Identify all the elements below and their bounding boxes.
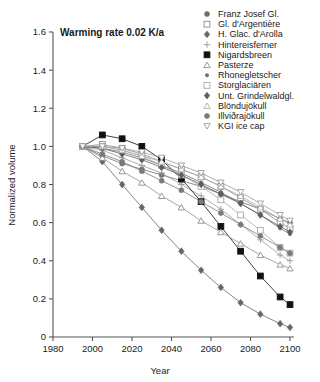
y-axis-tick-label: 1.4 [33,65,46,76]
legend-marker-icon [204,92,209,99]
x-axis-tick-label: 2020 [121,343,142,354]
x-axis-title: Year [150,365,169,376]
series-marker [119,136,125,142]
x-axis-tick-label: 2080 [240,343,261,354]
series-unt-grindelwaldgl [80,143,293,236]
series-marker [159,178,164,183]
legend-item-label: Pasterze [218,60,254,70]
series-marker [218,284,223,291]
y-axis-tick-label: 1.6 [33,26,46,37]
series-marker [237,241,243,246]
legend-marker-icon [205,74,208,77]
legend-marker-icon [204,41,211,48]
legend-item-label: H. Glac. d'Arolla [218,29,283,39]
series-marker [120,159,125,164]
series-marker [198,218,204,223]
series-marker [287,324,292,331]
y-axis-tick-label: 0 [41,331,46,342]
series-line [83,146,290,234]
y-axis-tick-label: 1.2 [33,103,46,114]
legend-item-label: Storglaciären [218,80,271,90]
legend-item-label: Rhonegletscher [218,70,281,80]
axis-titles: Year Normalized volume [6,144,170,376]
series-marker [100,152,105,157]
legend-marker-icon [204,31,209,38]
legend-marker-icon [204,21,210,27]
page-title: Warming rate 0.02 K/a [60,27,165,38]
legend-marker-icon [204,52,210,58]
plot-title-group: Warming rate 0.02 K/a [60,27,165,38]
series-marker [287,265,293,270]
series-marker [99,132,105,138]
legend-item-label: Hintereisferner [218,40,277,50]
y-axis-tick-label: 0.4 [33,255,46,266]
y-axis-tick-label: 0.2 [33,293,46,304]
series-marker [178,204,184,209]
legend-item-label: Illviðrajökull [218,111,265,121]
series-marker [257,273,263,279]
series-marker [119,168,125,173]
legend-marker-icon [204,124,210,129]
y-axis-tick-label: 1.0 [33,141,46,152]
x-axis-tick-label: 2060 [200,343,221,354]
normalized-volume-line-chart: Warming rate 0.02 K/a 00.20.40.60.81.01.… [0,0,320,382]
legend-item-unt-grindelwaldgl[interactable]: Unt. Grindelwaldgl. [204,91,294,101]
series-marker [277,320,282,327]
series-marker [198,193,205,200]
series-marker [277,252,284,259]
series-marker [258,311,263,318]
series-marker [238,299,243,306]
legend-item-rhonegletscher[interactable]: Rhonegletscher [205,70,281,80]
x-axis-tick-label: 2000 [82,343,103,354]
series-marker [277,262,283,267]
series-line [83,146,290,232]
y-axis-title: Normalized volume [6,144,17,225]
legend-item-h-glac-d-arolla[interactable]: H. Glac. d'Arolla [204,29,282,39]
legend-marker-icon [204,103,210,108]
legend-item-label: Nigardsbreen [218,50,272,60]
x-axis-tick-label: 2100 [279,343,300,354]
series-marker [287,257,294,264]
x-axis-tick-label: 1980 [42,343,63,354]
legend-item-illvi-raj-kull[interactable]: Illviðrajökull [205,111,265,121]
series-marker [199,199,204,204]
legend-marker-icon [205,114,210,119]
chart-figure: Warming rate 0.02 K/a 00.20.40.60.81.01.… [0,0,320,382]
legend-item-label: Franz Josef Gl. [218,9,279,19]
series-marker [218,229,224,234]
series-marker [238,248,244,254]
chart-legend: Franz Josef Gl.Gl. d'ArgentièreH. Glac. … [204,9,294,131]
legend-item-gl-d-argenti-re[interactable]: Gl. d'Argentière [204,19,280,29]
legend-marker-icon [204,62,210,67]
series-marker [139,180,145,185]
series-marker [139,143,145,149]
y-axis-tick-label: 0.8 [33,179,46,190]
series-marker [258,233,263,238]
series-marker [238,212,244,218]
y-axis-tick-label: 0.6 [33,217,46,228]
series-marker [278,245,283,250]
series-marker [139,169,144,174]
series-marker [277,294,283,300]
series-storglaci-ren [80,143,293,256]
series-marker [287,302,293,308]
legend-item-label: Unt. Grindelwaldgl. [218,91,294,101]
legend-item-label: Gl. d'Argentière [218,19,280,29]
legend-item-label: KGI ice cap [218,121,265,131]
series-marker [288,251,293,256]
series-marker [218,211,223,216]
legend-marker-icon [205,12,210,17]
legend-item-storglaci-ren[interactable]: Storglaciären [204,80,271,90]
legend-item-kgi-ice-cap[interactable]: KGI ice cap [204,121,265,131]
series-marker [257,252,263,257]
legend-marker-icon [204,83,210,89]
legend-item-pasterze[interactable]: Pasterze [204,60,254,70]
legend-item-bl-nduj-kull[interactable]: Blöndujökull [204,101,267,111]
series-marker [179,188,184,193]
legend-item-nigardsbreen[interactable]: Nigardsbreen [204,50,272,60]
legend-item-label: Blöndujökull [218,101,267,111]
legend-item-hintereisferner[interactable]: Hintereisferner [204,40,277,50]
series-marker [158,193,164,198]
series-marker [237,190,243,195]
legend-item-franz-josef-gl[interactable]: Franz Josef Gl. [205,9,280,19]
